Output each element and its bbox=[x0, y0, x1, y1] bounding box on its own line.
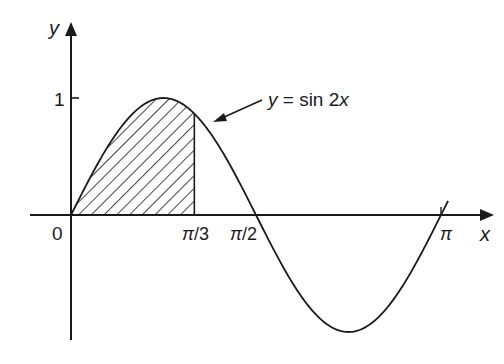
curve-label: y = sin 2x bbox=[266, 89, 350, 110]
x-tick-label-pi: π bbox=[440, 224, 453, 244]
shaded-area bbox=[71, 98, 194, 215]
x-tick-label-pi-over-3: π/3 bbox=[182, 224, 209, 244]
label-pointer-arrowhead-icon bbox=[213, 113, 227, 122]
curve-label-eq: = sin 2 bbox=[278, 89, 340, 110]
y-tick-label-one: 1 bbox=[54, 89, 65, 110]
pi-symbol: π bbox=[182, 224, 195, 244]
sine-graph: y x 1 0 π/3 π/2 π y = sin 2x bbox=[0, 0, 504, 364]
pi-symbol: π bbox=[230, 224, 243, 244]
fraction-part: /2 bbox=[242, 224, 257, 244]
y-axis-arrow-icon bbox=[65, 22, 77, 36]
curve-label-x: x bbox=[338, 89, 350, 110]
x-axis-arrow-icon bbox=[480, 209, 494, 221]
x-tick-label-pi-over-2: π/2 bbox=[230, 224, 257, 244]
label-pointer bbox=[222, 100, 262, 118]
origin-label: 0 bbox=[52, 223, 63, 244]
x-axis-label: x bbox=[479, 223, 491, 245]
y-axis-label: y bbox=[47, 17, 60, 39]
fraction-part: /3 bbox=[194, 224, 209, 244]
